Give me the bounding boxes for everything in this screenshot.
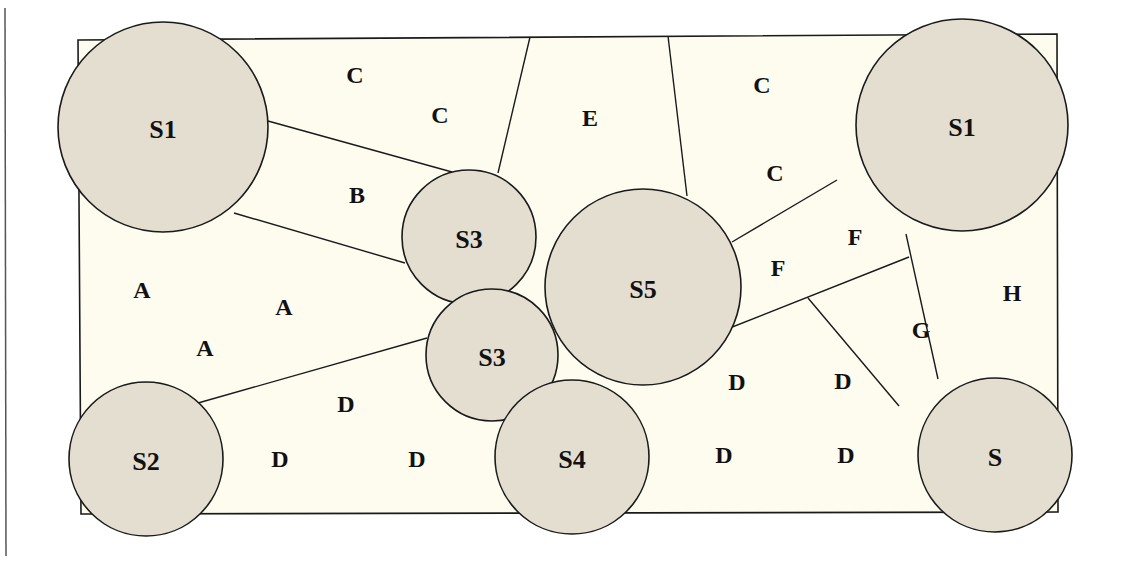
node-label: S4	[558, 445, 585, 474]
node-label: S3	[455, 225, 482, 254]
margin-rule	[5, 8, 6, 556]
node-s3-upper: S3	[402, 170, 536, 304]
zone-label-d: D	[408, 446, 425, 472]
node-s4: S4	[495, 380, 649, 534]
zone-label-h: H	[1003, 280, 1022, 306]
zone-label-a: A	[133, 277, 151, 303]
zone-label-d: D	[728, 369, 745, 395]
node-label: S5	[629, 275, 656, 304]
zone-label-c: C	[431, 102, 448, 128]
node-s2: S2	[69, 382, 223, 536]
zone-label-d: D	[271, 446, 288, 472]
zone-diagram: CCECCBAAAFFHGDDDDDDD S1S1S3S3S5S2S4S	[0, 0, 1135, 569]
zone-label-f: F	[771, 255, 786, 281]
zone-label-d: D	[715, 442, 732, 468]
zone-label-c: C	[753, 72, 770, 98]
zone-label-d: D	[337, 391, 354, 417]
node-label: S2	[132, 447, 159, 476]
zone-label-b: B	[349, 182, 365, 208]
zone-label-f: F	[848, 224, 863, 250]
zone-label-c: C	[346, 62, 363, 88]
node-label: S	[988, 443, 1002, 472]
node-s1-left: S1	[58, 22, 268, 232]
zone-label-e: E	[582, 105, 598, 131]
zone-label-a: A	[275, 294, 293, 320]
node-s5: S5	[545, 189, 741, 385]
node-s: S	[918, 378, 1072, 532]
zone-label-d: D	[834, 368, 851, 394]
node-label: S3	[478, 343, 505, 372]
zone-label-c: C	[766, 160, 783, 186]
zone-label-d: D	[837, 442, 854, 468]
node-s1-right: S1	[856, 19, 1068, 231]
zone-label-a: A	[196, 335, 214, 361]
node-label: S1	[149, 115, 176, 144]
node-label: S1	[948, 113, 975, 142]
zone-label-g: G	[912, 317, 931, 343]
